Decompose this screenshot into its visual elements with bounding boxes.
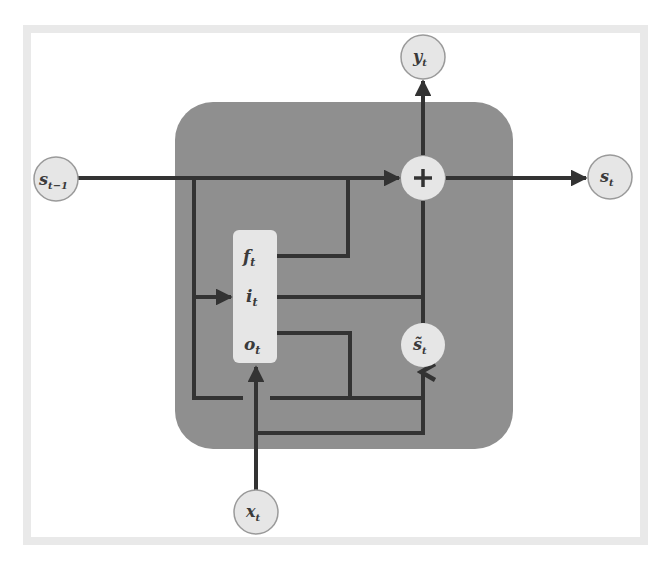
node-output: yt bbox=[401, 35, 445, 79]
gates-block: ft it ot bbox=[233, 230, 277, 363]
node-input: xt bbox=[234, 490, 278, 534]
node-prev-state: st−1 bbox=[34, 157, 78, 201]
node-sum bbox=[401, 156, 445, 200]
node-candidate: s̃t bbox=[401, 323, 445, 367]
node-next-state: st bbox=[588, 155, 632, 199]
recurrent-cell-diagram: ft it ot st−1 yt st s̃t xt bbox=[0, 0, 665, 565]
